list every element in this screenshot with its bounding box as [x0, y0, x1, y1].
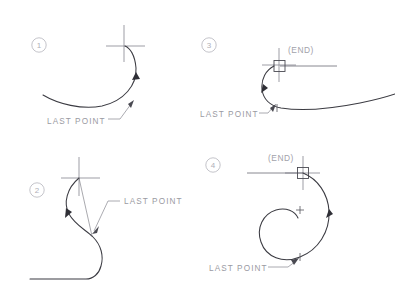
- panel-1-direction-arrowhead-icon: [132, 72, 140, 80]
- panel-4-direction-arrowhead-icon: [326, 209, 333, 218]
- panel-4-marker: 4: [206, 158, 220, 172]
- panel-2-last-point-label: LAST POINT: [124, 197, 183, 206]
- panel-4-number: 4: [211, 161, 216, 170]
- panel-1-marker: 1: [32, 38, 46, 52]
- panel-1-last-point-label: LAST POINT: [47, 117, 106, 126]
- diagram-sheet: 1 LAST POINT 2: [0, 0, 395, 295]
- panel-2-curve: [30, 178, 102, 279]
- panel-4-end-label: (END): [268, 153, 294, 163]
- panel-2-marker: 2: [30, 183, 44, 197]
- panel-3: 3 (END) LAST POINT: [200, 38, 395, 119]
- panel-2-number: 2: [35, 186, 40, 195]
- leader-line-angled: [94, 201, 108, 231]
- panel-4-last-point-label: LAST POINT: [209, 264, 268, 273]
- panel-3-number: 3: [207, 41, 212, 50]
- panel-2: 2 LAST POINT: [30, 157, 183, 279]
- panel-4: 4 (END) LAST POINT: [206, 153, 333, 273]
- panel-4-spiral-curve: [259, 173, 329, 260]
- panel-3-curve: [262, 66, 395, 109]
- panel-3-marker: 3: [202, 38, 216, 52]
- leader-line: [268, 261, 296, 267]
- panel-1-curve: [43, 46, 136, 107]
- leader-line: [108, 104, 131, 119]
- panel-3-end-label: (END): [288, 45, 314, 55]
- panel-2-last-point-leader: [92, 201, 120, 234]
- panel-4-inner-tick: [296, 206, 304, 214]
- panel-1-number: 1: [37, 41, 42, 50]
- panel-2-crosshair: [61, 157, 100, 196]
- panel-1-crosshair: [106, 25, 145, 62]
- panel-1: 1 LAST POINT: [32, 25, 145, 126]
- panel-3-last-point-label: LAST POINT: [200, 110, 259, 119]
